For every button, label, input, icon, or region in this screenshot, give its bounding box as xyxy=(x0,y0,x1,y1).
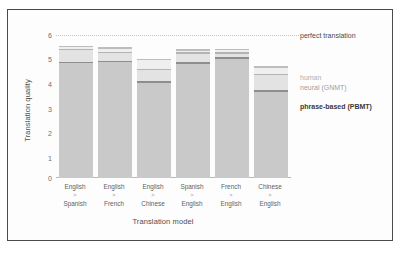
segment-neural-gnmt xyxy=(137,69,171,81)
bar-spanish-english[interactable] xyxy=(176,49,210,178)
x-category-3: Spanish > English xyxy=(173,183,211,208)
x-category-0-to: Spanish xyxy=(63,200,86,207)
segment-phrase-based-pbmt-cap xyxy=(59,62,93,64)
y-tick-5: 5 xyxy=(36,56,52,63)
x-category-0-from: English xyxy=(65,183,86,190)
segment-phrase-based-pbmt xyxy=(215,57,249,178)
segment-neural-gnmt xyxy=(59,49,93,62)
bar-french-english[interactable] xyxy=(215,49,249,178)
x-category-5: Chinese > English xyxy=(251,183,289,208)
segment-phrase-based-pbmt xyxy=(137,81,171,178)
segment-human-cap xyxy=(59,46,93,48)
y-tick-6: 6 xyxy=(36,32,52,39)
y-tick-3: 3 xyxy=(36,106,52,113)
legend-perfect-translation: perfect translation xyxy=(300,32,356,40)
x-category-5-to: English xyxy=(260,200,281,207)
x-category-2-to: Chinese xyxy=(141,200,164,207)
bars-container xyxy=(56,35,291,178)
segment-neural-gnmt xyxy=(254,74,288,90)
x-category-4: French > English xyxy=(212,183,250,208)
x-category-3-arrow: > xyxy=(173,191,211,199)
y-tick-1: 1 xyxy=(36,155,52,162)
x-axis-title: Translation model xyxy=(38,217,288,226)
x-category-3-to: English xyxy=(182,200,203,207)
segment-phrase-based-pbmt xyxy=(254,90,288,178)
segment-phrase-based-pbmt-cap xyxy=(176,62,210,64)
segment-phrase-based-pbmt-cap xyxy=(215,57,249,59)
y-tick-0: 0 xyxy=(36,175,52,182)
segment-human-cap xyxy=(215,49,249,51)
chart-frame: Translation quality 6 5 4 3 2 1 0 Englis… xyxy=(7,9,393,241)
segment-neural-gnmt-cap xyxy=(215,52,249,54)
x-category-4-from: French xyxy=(221,183,241,190)
x-category-4-to: English xyxy=(221,200,242,207)
segment-human-cap xyxy=(254,66,288,68)
segment-neural-gnmt-cap xyxy=(254,74,288,76)
bar-chinese-english[interactable] xyxy=(254,66,288,178)
segment-neural-gnmt-cap xyxy=(176,52,210,54)
plot-area: Translation quality 6 5 4 3 2 1 0 Englis… xyxy=(8,10,392,240)
x-category-3-from: Spanish xyxy=(180,183,203,190)
segment-neural-gnmt-cap xyxy=(98,52,132,54)
x-category-0: English > Spanish xyxy=(56,183,94,208)
x-category-5-from: Chinese xyxy=(258,183,281,190)
legend-phrase-based-pbmt: phrase-based (PBMT) xyxy=(300,103,372,111)
perfect-translation-reference-line xyxy=(56,35,301,36)
segment-phrase-based-pbmt-cap xyxy=(137,81,171,83)
y-tick-2: 2 xyxy=(36,130,52,137)
x-category-2: English > Chinese xyxy=(134,183,172,208)
x-category-1-arrow: > xyxy=(95,191,133,199)
segment-phrase-based-pbmt xyxy=(98,61,132,178)
y-tick-4: 4 xyxy=(36,81,52,88)
x-category-1: English > French xyxy=(95,183,133,208)
x-category-1-to: French xyxy=(104,200,124,207)
x-category-5-arrow: > xyxy=(251,191,289,199)
segment-neural-gnmt-cap xyxy=(59,49,93,51)
segment-phrase-based-pbmt-cap xyxy=(254,90,288,92)
y-axis-title: Translation quality xyxy=(23,56,32,166)
x-category-2-from: English xyxy=(143,183,164,190)
segment-human-cap xyxy=(98,47,132,49)
legend-human: human xyxy=(300,74,321,82)
segment-human-cap xyxy=(176,49,210,51)
bar-english-french[interactable] xyxy=(98,47,132,178)
x-category-2-arrow: > xyxy=(134,191,172,199)
segment-neural-gnmt-cap xyxy=(137,69,171,71)
bar-english-spanish[interactable] xyxy=(59,46,93,178)
legend-neural-gnmt: neural (GNMT) xyxy=(300,84,347,92)
segment-phrase-based-pbmt xyxy=(176,62,210,178)
segment-phrase-based-pbmt-cap xyxy=(98,61,132,63)
bar-english-chinese[interactable] xyxy=(137,59,171,178)
x-category-1-from: English xyxy=(104,183,125,190)
segment-phrase-based-pbmt xyxy=(59,62,93,178)
x-category-0-arrow: > xyxy=(56,191,94,199)
segment-human-cap xyxy=(137,59,171,61)
x-category-4-arrow: > xyxy=(212,191,250,199)
